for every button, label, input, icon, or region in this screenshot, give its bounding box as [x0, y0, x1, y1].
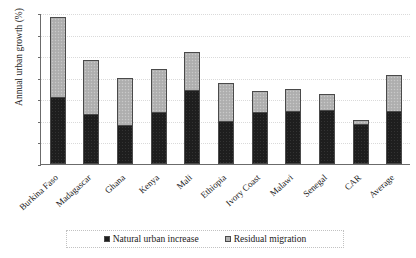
stacked-bar-chart: Annual urban growth (%) 01234567 Burkina… [0, 0, 416, 258]
bar-group [386, 75, 402, 165]
bar-group [218, 83, 234, 164]
legend-label: Residual migration [234, 234, 307, 244]
bar-segment-residual-migration [218, 83, 234, 121]
y-tick-mark [38, 57, 41, 58]
y-tick-mark [38, 79, 41, 80]
bar-segment-residual-migration [83, 60, 99, 114]
gridline [41, 14, 410, 15]
bar-segment-residual-migration [50, 17, 66, 97]
legend-label: Natural urban increase [113, 234, 199, 244]
bar-group [117, 78, 133, 164]
bar-segment-natural-urban-increase [386, 111, 402, 164]
bar-segment-natural-urban-increase [151, 112, 167, 164]
bar-segment-residual-migration [252, 91, 268, 113]
legend: Natural urban increaseResidual migration [66, 230, 344, 248]
gridline [41, 57, 410, 58]
bar-segment-natural-urban-increase [184, 90, 200, 164]
bar-segment-residual-migration [151, 69, 167, 112]
bar-group [252, 91, 268, 164]
y-tick-mark [38, 122, 41, 123]
bar-segment-residual-migration [184, 52, 200, 90]
bar-group [151, 69, 167, 164]
bar-segment-natural-urban-increase [83, 114, 99, 164]
bar-group [353, 120, 369, 164]
y-tick-mark [38, 14, 41, 15]
bar-segment-natural-urban-increase [50, 97, 66, 164]
bar-group [319, 94, 335, 164]
bar-segment-residual-migration [319, 94, 335, 110]
y-tick-mark [38, 165, 41, 166]
bar-segment-residual-migration [285, 89, 301, 112]
y-tick-mark [38, 143, 41, 144]
bar-segment-residual-migration [117, 78, 133, 125]
bar-segment-natural-urban-increase [117, 125, 133, 164]
bar-segment-natural-urban-increase [319, 110, 335, 164]
plot-area: 01234567 [40, 14, 410, 165]
bar-group [285, 89, 301, 164]
y-tick-mark [38, 36, 41, 37]
legend-swatch-icon [104, 236, 110, 242]
bar-group [83, 60, 99, 164]
y-tick-mark [38, 100, 41, 101]
bar-group [184, 52, 200, 164]
bar-segment-residual-migration [386, 75, 402, 112]
bar-segment-natural-urban-increase [285, 111, 301, 164]
legend-swatch-icon [225, 236, 231, 242]
bar-group [50, 17, 66, 164]
bar-segment-natural-urban-increase [218, 121, 234, 164]
legend-entry: Natural urban increase [104, 234, 199, 244]
legend-entry: Residual migration [225, 234, 307, 244]
y-axis-title: Annual urban growth (%) [14, 0, 24, 132]
bar-segment-natural-urban-increase [252, 112, 268, 164]
bar-segment-natural-urban-increase [353, 124, 369, 164]
gridline [41, 36, 410, 37]
